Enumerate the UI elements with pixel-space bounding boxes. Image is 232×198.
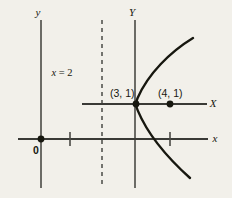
vertex-point <box>133 101 140 108</box>
curve-point-label: (4, 1) <box>158 87 183 99</box>
parabola-curve <box>136 38 193 178</box>
reference-line-label: x = 2 <box>50 67 72 78</box>
new-X-axis-label: X <box>209 97 218 109</box>
vertex-point-label: (3, 1) <box>110 87 135 99</box>
old-y-axis-label: y <box>35 6 41 18</box>
new-Y-axis-label: Y <box>129 6 137 18</box>
old-x-axis-label: x <box>212 132 218 144</box>
origin-point <box>38 136 45 143</box>
math-figure-translation-of-axes: y x Y X 0 (3, 1) (4, 1) x = 2 <box>0 0 232 198</box>
coordinate-plane-svg: y x Y X 0 (3, 1) (4, 1) x = 2 <box>0 0 232 198</box>
reference-line-label-rest: = 2 <box>56 67 72 78</box>
curve-point <box>167 101 174 108</box>
origin-label: 0 <box>33 144 39 156</box>
